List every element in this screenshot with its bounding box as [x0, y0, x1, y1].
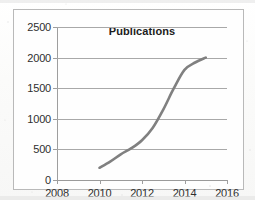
x-tick-2012 [142, 180, 143, 184]
x-axis-label: 2008 [45, 187, 69, 199]
x-tick-2010 [100, 180, 101, 184]
chart-frame: Publications 05001000150020002500 200820… [13, 9, 244, 190]
y-axis-label: 2000 [27, 52, 51, 64]
x-tick-2014 [185, 180, 186, 184]
y-axis-label: 1500 [27, 82, 51, 94]
series-line-publications [57, 27, 227, 180]
y-axis-label: 1000 [27, 113, 51, 125]
x-axis-label: 2016 [215, 187, 239, 199]
x-axis-label: 2010 [88, 187, 112, 199]
y-axis-label: 2500 [27, 21, 51, 33]
x-axis-label: 2014 [173, 187, 197, 199]
x-axis-label: 2012 [130, 187, 154, 199]
x-tick-2008 [57, 180, 58, 184]
plot-area: Publications 05001000150020002500 200820… [57, 27, 227, 180]
y-axis-label: 500 [33, 143, 51, 155]
y-axis-label: 0 [45, 174, 51, 186]
x-tick-2016 [227, 180, 228, 184]
